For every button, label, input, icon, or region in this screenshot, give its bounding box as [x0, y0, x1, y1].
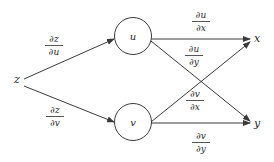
fraction-numerator: ∂z: [49, 34, 59, 44]
edge-z-to-v: [24, 86, 114, 122]
node-x-label: x: [254, 32, 261, 45]
edge-v-to-x: [151, 42, 250, 122]
fraction-dz-dv: ∂z ∂v: [46, 105, 64, 128]
fraction-denominator: ∂x: [190, 102, 200, 112]
node-y-label: y: [253, 117, 261, 130]
fraction-dz-du: ∂z ∂u: [45, 34, 63, 57]
fraction-denominator: ∂y: [189, 57, 200, 67]
fraction-numerator: ∂u: [196, 10, 207, 20]
fraction-dv-dx: ∂v ∂x: [186, 89, 204, 112]
node-u: u: [115, 18, 152, 55]
fraction-dv-dy: ∂v ∂y: [192, 131, 210, 154]
edge-u-to-y: [151, 41, 250, 121]
fraction-denominator: ∂u: [49, 47, 60, 57]
node-v: v: [115, 104, 152, 141]
fraction-numerator: ∂v: [196, 131, 206, 141]
fraction-denominator: ∂v: [50, 118, 60, 128]
fraction-numerator: ∂v: [190, 89, 200, 99]
edge-z-to-u: [24, 39, 114, 79]
fraction-denominator: ∂x: [196, 23, 206, 33]
node-z-label: z: [13, 73, 20, 86]
node-v-label: v: [130, 117, 136, 128]
node-u-label: u: [130, 31, 136, 42]
fraction-numerator: ∂z: [50, 105, 60, 115]
chain-rule-tree-diagram: u v z x y ∂z ∂u ∂z ∂v ∂u ∂x ∂u ∂y ∂v ∂x …: [0, 0, 274, 162]
fraction-du-dy: ∂u ∂y: [185, 44, 203, 67]
fraction-denominator: ∂y: [196, 144, 207, 154]
fraction-numerator: ∂u: [189, 44, 200, 54]
fraction-du-dx: ∂u ∂x: [192, 10, 210, 33]
